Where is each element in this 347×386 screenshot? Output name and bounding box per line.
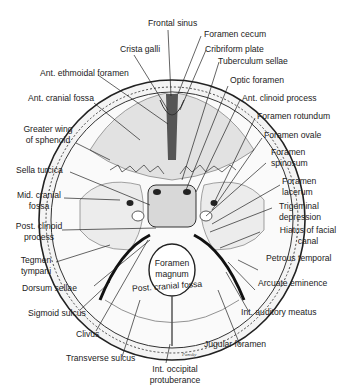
label-line: magnum: [152, 269, 192, 280]
label-line: of sphenoid: [20, 135, 76, 146]
label-line: Foramen: [282, 176, 316, 187]
label-frontal-sinus: Frontal sinus: [148, 18, 197, 29]
label-line: protuberance: [145, 375, 205, 386]
label-hiatus-of-facial-canal: Hiatus of facial canal: [268, 225, 347, 246]
label-line: Post. clinoid: [14, 221, 64, 232]
label-foramen-rotundum: Foramen rotundum: [257, 111, 330, 122]
label-sigmoid-sulcus: Sigmoid sulcus: [28, 308, 86, 319]
label-int-occipital-protuberance: Int. occipital protuberance: [145, 364, 205, 385]
label-ant-ethmoidal-foramen: Ant. ethmoidal foramen: [40, 68, 129, 79]
label-line: tympani: [18, 266, 54, 277]
label-clivus: Clivus: [76, 329, 99, 340]
label-jugular-foramen: Jugular foramen: [204, 339, 266, 350]
label-foramen-cecum: Foramen cecum: [204, 29, 266, 40]
label-post-clinoid-process: Post. clinoid process: [14, 221, 64, 242]
label-petrous-temporal: Petrous temporal: [266, 253, 331, 264]
label-foramen-ovale: Foramen ovale: [264, 130, 321, 141]
label-line: Mid. cranial: [14, 190, 64, 201]
label-line: Hiatus of facial: [268, 225, 347, 236]
label-foramen-magnum: Foramen magnum: [152, 258, 192, 279]
label-line: Int. occipital: [145, 364, 205, 375]
label-ant-clinoid-process: Ant. clinoid process: [242, 93, 317, 104]
label-sella-turcica: Sella turcica: [16, 165, 63, 176]
label-line: lacerum: [282, 187, 316, 198]
label-line: depression: [279, 212, 321, 223]
signature: Pansky: [181, 352, 197, 357]
label-line: canal: [268, 236, 347, 247]
label-mid-cranial-fossa: Mid. cranial fossa: [14, 190, 64, 211]
label-dorsum-sellae: Dorsum sellae: [22, 283, 77, 294]
label-foramen-lacerum: Foramen lacerum: [282, 176, 316, 197]
label-int-auditory-meatus: Int. auditory meatus: [241, 307, 316, 318]
label-line: fossa: [14, 201, 64, 212]
label-line: process: [14, 232, 64, 243]
label-tuberculum-sellae: Tuberculum sellae: [218, 56, 288, 67]
label-line: Greater wing: [20, 124, 76, 135]
label-transverse-sulcus: Transverse sulcus: [66, 353, 135, 364]
label-line: Trigeminal: [279, 201, 321, 212]
label-line: spinosum: [271, 158, 308, 169]
label-arcuate-eminence: Arcuate eminence: [258, 278, 327, 289]
label-crista-galli: Crista galli: [120, 44, 160, 55]
label-tegmen-tympani: Tegmen tympani: [18, 255, 54, 276]
label-cribriform-plate: Cribriform plate: [205, 44, 264, 55]
label-line: Foramen: [152, 258, 192, 269]
label-line: Tegmen: [18, 255, 54, 266]
skull-base-diagram: Pansky Frontal sinus Foramen cecum Crist…: [0, 0, 347, 386]
label-optic-foramen: Optic foramen: [230, 75, 284, 86]
label-greater-wing-of-sphenoid: Greater wing of sphenoid: [20, 124, 76, 145]
label-line: Foramen: [271, 147, 308, 158]
label-ant-cranial-fossa: Ant. cranial fossa: [28, 93, 94, 104]
label-trigeminal-depression: Trigeminal depression: [279, 201, 321, 222]
label-foramen-spinosum: Foramen spinosum: [271, 147, 308, 168]
